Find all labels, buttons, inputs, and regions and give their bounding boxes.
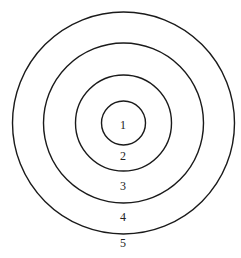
zone-label-4: 4 (120, 210, 126, 224)
zone-label-1: 1 (120, 118, 126, 132)
zone-label-2: 2 (120, 149, 126, 163)
labels-group: 12345 (120, 118, 126, 250)
zone-label-5: 5 (120, 236, 126, 250)
concentric-circle-diagram: 12345 (0, 0, 241, 258)
zone-label-3: 3 (120, 179, 126, 193)
